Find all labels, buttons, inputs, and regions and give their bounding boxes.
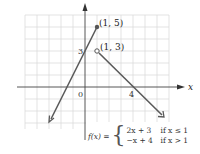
x-axis-label: x	[188, 82, 193, 92]
formula-cases: 2x + 3 if x ≤ 1 −x + 4 if x > 1	[127, 126, 189, 146]
case-2: −x + 4 if x > 1	[127, 136, 189, 146]
brace-icon: {	[112, 124, 126, 146]
y-axis-arrow-icon	[83, 3, 88, 11]
line-2x-plus-3	[51, 27, 97, 119]
case-1-expr: 2x + 3	[127, 126, 161, 136]
case-1-cond: if x ≤ 1	[161, 126, 189, 136]
point-label-1-5: (1, 5)	[99, 18, 123, 28]
piecewise-formula: f(x) = { 2x + 3 if x ≤ 1 −x + 4 if x > 1	[86, 122, 184, 150]
origin-label: 0	[78, 90, 83, 99]
x-axis-arrow-icon	[177, 85, 185, 90]
case-2-expr: −x + 4	[127, 136, 161, 146]
grid	[25, 15, 169, 129]
point-label-1-3: (1, 3)	[100, 42, 124, 52]
case-1: 2x + 3 if x ≤ 1	[127, 126, 189, 136]
open-point	[95, 49, 99, 53]
y-tick-3: 3	[78, 47, 83, 56]
case-2-cond: if x > 1	[161, 136, 189, 146]
line-neg-x-plus-4	[99, 53, 162, 115]
formula-lhs: f(x) =	[88, 132, 110, 141]
x-tick-4: 4	[129, 90, 134, 99]
